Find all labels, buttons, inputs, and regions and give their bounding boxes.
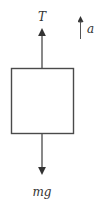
acceleration-label: a [87,22,94,36]
free-body-diagram: T mg a [0,0,99,207]
block [12,69,74,134]
acceleration-arrow [79,19,83,39]
weight-label: mg [32,185,51,199]
tension-label: T [38,10,47,24]
